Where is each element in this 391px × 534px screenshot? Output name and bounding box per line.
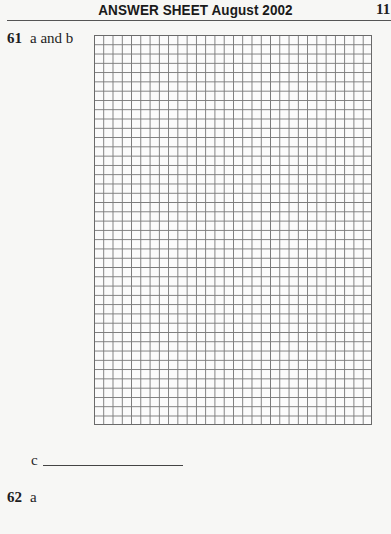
graph-paper-grid[interactable] — [94, 35, 372, 425]
question-parts-label: a — [30, 489, 37, 506]
part-c-answer-line[interactable] — [43, 465, 183, 466]
question-parts-label: a and b — [30, 30, 73, 47]
header-title: ANSWER SHEET August 2002 — [20, 1, 372, 18]
part-c-label: c — [31, 452, 38, 469]
header-divider — [7, 20, 391, 21]
page-number: 11 — [376, 1, 390, 18]
question-number: 62 — [7, 489, 22, 506]
question-number: 61 — [7, 30, 22, 47]
